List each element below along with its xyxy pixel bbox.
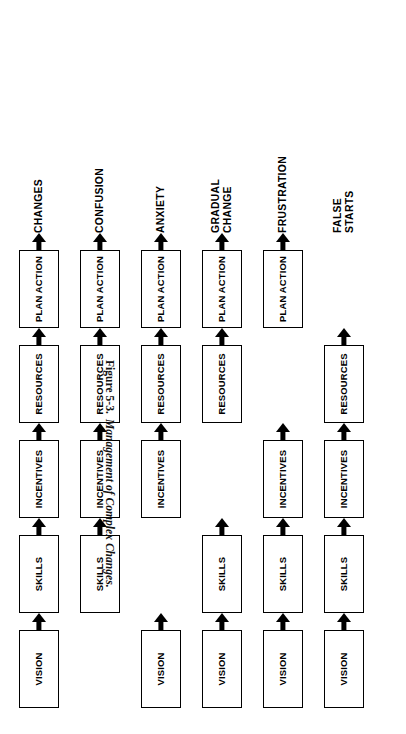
cell-vision: VISION: [19, 613, 59, 708]
arrow-right-icon: [154, 613, 168, 630]
arrow-right-icon: [276, 613, 290, 630]
cell-vision: VISION: [324, 613, 364, 708]
cell-skills: SKILLS: [19, 518, 59, 613]
node-plan-action-missing: [324, 250, 364, 328]
cell-outcome: ANXIETY: [155, 113, 166, 233]
node-incentives-missing: [202, 440, 242, 518]
arrow-right-icon: [154, 233, 168, 250]
cell-skills: SKILLS: [324, 518, 364, 613]
cell-resources: RESOURCES: [19, 328, 59, 423]
chain-row-anxiety: VISION INCENTIVES RESOURCES PLAN ACTION …: [130, 113, 191, 708]
cell-resources: RESOURCES: [324, 328, 364, 423]
outcome-label-anxiety: ANXIETY: [155, 186, 166, 233]
outcome-label-false-starts: FALSE STARTS: [332, 190, 354, 233]
cell-vision-missing: [80, 613, 120, 708]
chain-row-false-starts: VISION SKILLS INCENTIVES RESOURCES FALSE…: [313, 113, 374, 708]
node-incentives: INCENTIVES: [141, 440, 181, 518]
arrow-right-icon: [32, 423, 46, 440]
node-skills: SKILLS: [263, 535, 303, 613]
arrow-right-icon: [93, 328, 107, 345]
node-skills: SKILLS: [202, 535, 242, 613]
cell-incentives: INCENTIVES: [263, 423, 303, 518]
outcome-label-gradual-change: GRADUAL CHANGE: [210, 179, 232, 233]
arrow-right-icon: [337, 613, 351, 630]
node-resources: RESOURCES: [19, 345, 59, 423]
node-skills-missing: [141, 535, 181, 613]
chain-row-changes: VISION SKILLS INCENTIVES RESOURCES PLAN …: [8, 113, 69, 708]
node-plan-action: PLAN ACTION: [263, 250, 303, 328]
node-resources-missing: [263, 345, 303, 423]
cell-vision: VISION: [141, 613, 181, 708]
chain-matrix: VISION SKILLS INCENTIVES RESOURCES PLAN …: [8, 113, 374, 708]
cell-plan-action: PLAN ACTION: [80, 233, 120, 328]
cell-resources-missing: [263, 328, 303, 423]
node-resources: RESOURCES: [141, 345, 181, 423]
arrow-right-icon: [154, 328, 168, 345]
cell-vision: VISION: [202, 613, 242, 708]
figure-caption: Figure 5-3.Management of Complex Changes…: [400, 362, 406, 662]
figure-diagram: VISION SKILLS INCENTIVES RESOURCES PLAN …: [0, 0, 406, 734]
node-vision-missing: [80, 630, 120, 708]
arrow-right-icon: [337, 328, 351, 345]
cell-outcome: FRUSTRATION: [277, 113, 288, 233]
arrow-right-icon: [215, 233, 229, 250]
cell-plan-action-missing: [324, 233, 364, 328]
chain-row-gradual-change: VISION SKILLS RESOURCES PLAN ACTION GRAD…: [191, 113, 252, 708]
cell-incentives: INCENTIVES: [19, 423, 59, 518]
cell-outcome: GRADUAL CHANGE: [210, 113, 232, 233]
cell-resources: RESOURCES: [141, 328, 181, 423]
arrow-right-icon: [93, 233, 107, 250]
arrow-right-icon: [276, 423, 290, 440]
arrow-right-icon: [32, 328, 46, 345]
cell-plan-action: PLAN ACTION: [141, 233, 181, 328]
cell-incentives-missing: [202, 423, 242, 518]
node-incentives: INCENTIVES: [263, 440, 303, 518]
node-vision: VISION: [263, 630, 303, 708]
arrow-right-icon: [32, 613, 46, 630]
chain-row-frustration: VISION SKILLS INCENTIVES PLAN ACTION FRU…: [252, 113, 313, 708]
chain-row-confusion: SKILLS INCENTIVES RESOURCES PLAN ACTION …: [69, 113, 130, 708]
node-plan-action: PLAN ACTION: [141, 250, 181, 328]
arrow-right-icon: [215, 613, 229, 630]
node-plan-action: PLAN ACTION: [80, 250, 120, 328]
cell-plan-action: PLAN ACTION: [263, 233, 303, 328]
cell-outcome: CONFUSION: [94, 113, 105, 233]
cell-plan-action: PLAN ACTION: [202, 233, 242, 328]
figure-number: Figure 5-3.: [103, 360, 116, 414]
node-plan-action: PLAN ACTION: [202, 250, 242, 328]
node-plan-action: PLAN ACTION: [19, 250, 59, 328]
node-incentives: INCENTIVES: [324, 440, 364, 518]
cell-incentives: INCENTIVES: [324, 423, 364, 518]
cell-skills-missing: [141, 518, 181, 613]
arrow-right-icon: [215, 518, 229, 535]
node-vision: VISION: [19, 630, 59, 708]
outcome-label-confusion: CONFUSION: [94, 168, 105, 233]
node-vision: VISION: [202, 630, 242, 708]
cell-resources: RESOURCES: [202, 328, 242, 423]
figure-title: Management of Complex Changes.: [103, 419, 116, 588]
cell-skills: SKILLS: [263, 518, 303, 613]
cell-skills: SKILLS: [202, 518, 242, 613]
node-resources: RESOURCES: [202, 345, 242, 423]
arrow-right-icon: [215, 328, 229, 345]
arrow-right-icon: [337, 423, 351, 440]
outcome-label-changes: CHANGES: [33, 179, 44, 233]
node-skills: SKILLS: [19, 535, 59, 613]
outcome-label-frustration: FRUSTRATION: [277, 156, 288, 233]
node-skills: SKILLS: [324, 535, 364, 613]
cell-outcome: CHANGES: [33, 113, 44, 233]
arrow-right-icon: [32, 518, 46, 535]
cell-plan-action: PLAN ACTION: [19, 233, 59, 328]
cell-outcome: FALSE STARTS: [332, 113, 354, 233]
arrow-right-icon: [276, 233, 290, 250]
cell-vision: VISION: [263, 613, 303, 708]
arrow-right-icon: [337, 518, 351, 535]
node-vision: VISION: [324, 630, 364, 708]
cell-incentives: INCENTIVES: [141, 423, 181, 518]
arrow-right-icon: [32, 233, 46, 250]
arrow-right-icon: [276, 518, 290, 535]
arrow-right-icon: [154, 423, 168, 440]
node-resources: RESOURCES: [324, 345, 364, 423]
node-vision: VISION: [141, 630, 181, 708]
node-incentives: INCENTIVES: [19, 440, 59, 518]
